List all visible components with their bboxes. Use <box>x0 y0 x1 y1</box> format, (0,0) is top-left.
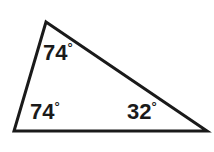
angle-value-bottom-right: 32 <box>127 99 151 124</box>
triangle-shape <box>0 0 214 152</box>
angle-label-bottom-left: 74° <box>30 101 60 123</box>
triangle-figure: 74° 74° 32° <box>0 0 214 152</box>
angle-value-apex: 74 <box>43 40 67 65</box>
angle-label-apex: 74° <box>43 42 73 64</box>
degree-icon: ° <box>54 99 59 114</box>
degree-icon: ° <box>67 40 72 55</box>
angle-label-bottom-right: 32° <box>127 101 157 123</box>
degree-icon: ° <box>151 99 156 114</box>
angle-value-bottom-left: 74 <box>30 99 54 124</box>
